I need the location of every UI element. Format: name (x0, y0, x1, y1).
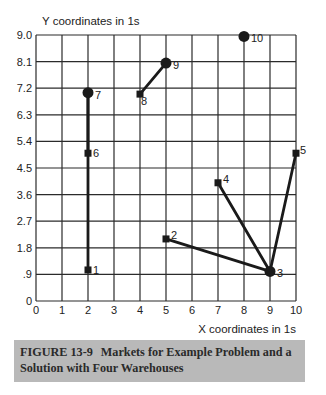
market-points: 12345678910 (83, 31, 307, 279)
assignment-line (140, 63, 166, 94)
y-tick-label: 8.1 (17, 56, 32, 68)
y-tick-label: 2.7 (17, 215, 32, 227)
warehouse-marker-icon (239, 31, 250, 42)
point-label: 8 (141, 95, 147, 107)
x-tick-label: 3 (111, 304, 117, 316)
point-label: 2 (171, 229, 177, 241)
y-axis-ticks: 0.91.82.73.64.55.46.37.28.19.0 (17, 29, 32, 307)
y-tick-label: .9 (23, 268, 32, 280)
assignment-line (270, 153, 296, 271)
market-marker-icon (163, 235, 170, 242)
x-tick-label: 0 (33, 304, 39, 316)
x-tick-label: 2 (85, 304, 91, 316)
market-marker-icon (85, 150, 92, 157)
point-label: 1 (93, 264, 99, 276)
y-tick-label: 9.0 (17, 29, 32, 41)
point-label: 4 (223, 173, 229, 185)
x-tick-label: 10 (290, 304, 302, 316)
market-marker-icon (293, 150, 300, 157)
point-label: 10 (251, 32, 263, 44)
point-label: 7 (95, 89, 101, 101)
x-tick-label: 7 (215, 304, 221, 316)
market-marker-icon (85, 266, 92, 273)
x-tick-label: 4 (137, 304, 143, 316)
x-axis-ticks: 012345678910 (33, 304, 302, 316)
x-axis-label: X coordinates in 1s (198, 323, 296, 335)
x-tick-label: 6 (189, 304, 195, 316)
x-tick-label: 1 (59, 304, 65, 316)
figure-caption: FIGURE 13-9 Markets for Example Problem … (14, 340, 305, 382)
scatter-chart: Y coordinates in 1s 0.91.82.73.64.55.46.… (0, 0, 326, 340)
y-tick-label: 6.3 (17, 109, 32, 121)
point-label: 6 (93, 147, 99, 159)
grid (36, 35, 296, 301)
y-tick-label: 1.8 (17, 242, 32, 254)
y-tick-label: 0 (26, 295, 32, 307)
point-label: 5 (300, 144, 306, 156)
y-tick-label: 5.4 (17, 135, 32, 147)
warehouse-marker-icon (265, 266, 276, 277)
warehouse-marker-icon (83, 87, 94, 98)
y-tick-label: 4.5 (17, 162, 32, 174)
warehouse-marker-icon (161, 58, 172, 69)
point-label: 9 (173, 59, 179, 71)
market-marker-icon (215, 179, 222, 186)
y-tick-label: 3.6 (17, 189, 32, 201)
figure-label: FIGURE 13-9 (20, 345, 93, 359)
x-tick-label: 9 (267, 304, 273, 316)
x-tick-label: 5 (163, 304, 169, 316)
point-label: 3 (277, 267, 283, 279)
x-tick-label: 8 (241, 304, 247, 316)
y-axis-label: Y coordinates in 1s (42, 15, 140, 27)
y-tick-label: 7.2 (17, 82, 32, 94)
